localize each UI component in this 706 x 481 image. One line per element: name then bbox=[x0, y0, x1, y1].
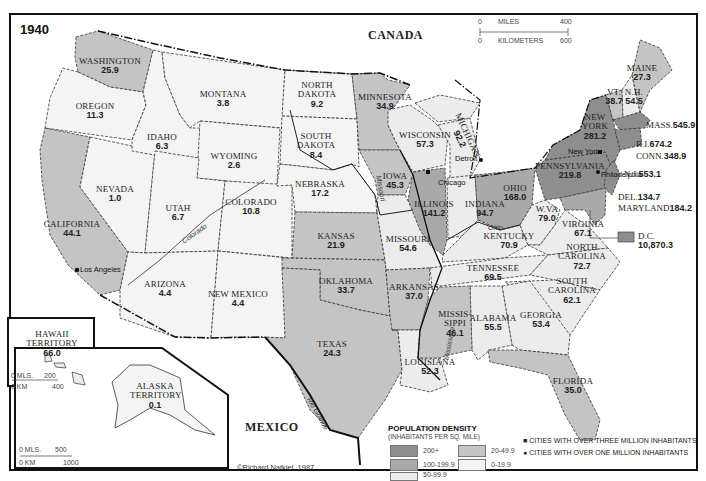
label-colorado: COLORADO10.8 bbox=[225, 198, 277, 217]
label-south-carolina: SOUTH CAROLINA62.1 bbox=[547, 277, 597, 305]
label-maine: MAINE27.3 bbox=[627, 64, 658, 83]
label-canada: CANADA bbox=[368, 28, 423, 43]
label-iowa: IOWA45.3 bbox=[383, 172, 407, 191]
legend-title: POPULATION DENSITY bbox=[388, 424, 480, 433]
label-north-carolina: NORTH CAROLINA72.7 bbox=[557, 243, 607, 271]
legend-subtitle: (INHABITANTS PER SQ. MILE) bbox=[388, 433, 480, 440]
hawaii-scale-mi-max: 200 bbox=[44, 372, 56, 379]
scale-mi-zero: 0 bbox=[478, 18, 482, 25]
legend-swatch-20 bbox=[458, 445, 486, 457]
label-ohio: OHIO168.0 bbox=[503, 184, 526, 203]
label-arkansas: ARKANSAS37.0 bbox=[389, 283, 439, 302]
label-washington: WASHINGTON25.9 bbox=[79, 57, 141, 76]
label-oregon: OREGON11.3 bbox=[76, 102, 115, 121]
city-detroit: Detroit bbox=[455, 154, 477, 163]
label-mexico: MEXICO bbox=[245, 420, 299, 435]
label-north-dakota: NORTH DAKOTA9.2 bbox=[292, 81, 342, 109]
city-new-york: New York bbox=[568, 147, 600, 156]
label-wyoming: WYOMING2.6 bbox=[211, 152, 258, 171]
label-maryland: MARYLAND184.2 bbox=[618, 197, 692, 215]
legend-swatch-100 bbox=[390, 459, 418, 471]
label-arizona: ARIZONA4.4 bbox=[144, 280, 186, 299]
river-ohio: Ohio bbox=[488, 224, 503, 231]
hawaii-scale-mi: 0 MLS. bbox=[11, 372, 33, 379]
legend-city-three-million: ■ CITIES WITH OVER THREE MILLION INHABIT… bbox=[523, 437, 697, 444]
chicago-square bbox=[426, 170, 430, 174]
label-connecticut: CONN.348.9 bbox=[636, 145, 686, 163]
scale-km-zero: 0 bbox=[478, 37, 482, 44]
legend-label-20: 20-49.9 bbox=[491, 447, 515, 454]
legend: POPULATION DENSITY (INHABITANTS PER SQ. … bbox=[388, 424, 480, 440]
legend-label-50: 50-99.9 bbox=[423, 471, 447, 478]
dc-swatch bbox=[618, 232, 634, 242]
city-los-angeles: Los Angeles bbox=[80, 265, 121, 274]
label-louisiana: LOUISIANA52.3 bbox=[405, 358, 456, 377]
label-florida: FLORIDA35.0 bbox=[553, 377, 593, 396]
legend-label-100: 100-199.9 bbox=[423, 461, 455, 468]
label-texas: TEXAS24.3 bbox=[317, 340, 347, 359]
city-chicago: Chicago bbox=[438, 178, 466, 187]
label-wisconsin: WISCONSIN57.3 bbox=[399, 131, 451, 150]
label-vermont: VT.38.7 bbox=[605, 88, 623, 107]
detroit-dot bbox=[479, 158, 483, 162]
label-west-virginia: W.VA79.0 bbox=[536, 205, 559, 224]
alaska-scale-km: 0 KM bbox=[19, 459, 35, 466]
label-alabama: ALABAMA55.5 bbox=[470, 314, 517, 333]
label-montana: MONTANA3.8 bbox=[200, 90, 247, 109]
legend-swatch-0 bbox=[458, 459, 486, 471]
square-icon: ■ bbox=[523, 437, 527, 444]
label-mississippi: MISSIS-SIPPI46.1 bbox=[437, 310, 473, 338]
legend-label-200plus: 200+ bbox=[423, 447, 439, 454]
dot-icon: ● bbox=[523, 449, 527, 456]
label-alaska: ALASKA TERRITORY0.1 bbox=[130, 382, 180, 410]
label-new-mexico: NEW MEXICO4.4 bbox=[208, 290, 268, 309]
label-virginia: VIRGINIA67.1 bbox=[562, 220, 605, 239]
label-california: CALIFORNIA44.1 bbox=[44, 220, 101, 239]
city-philadelphia: Philadelphia bbox=[601, 170, 642, 179]
hawaii-scale-km: 0 KM bbox=[11, 383, 27, 390]
label-georgia: GEORGIA53.4 bbox=[520, 311, 562, 330]
scale-km-label: KILOMETERS bbox=[498, 37, 543, 44]
label-indiana: INDIANA94.7 bbox=[465, 200, 505, 219]
label-kentucky: KENTUCKY70.9 bbox=[483, 232, 534, 251]
label-minnesota: MINNESOTA34.9 bbox=[358, 93, 412, 112]
map-year: 1940 bbox=[20, 22, 49, 37]
label-south-dakota: SOUTH DAKOTA8.4 bbox=[291, 132, 341, 160]
alaska-scale-km-max: 1000 bbox=[63, 459, 79, 466]
alaska-scale-mi-max: 500 bbox=[55, 446, 67, 453]
legend-label-0: 0-19.9 bbox=[491, 461, 511, 468]
label-oklahoma: OKLAHOMA33.7 bbox=[319, 277, 373, 296]
label-illinois: ILLINOIS141.2 bbox=[414, 200, 454, 219]
label-kansas: KANSAS21.9 bbox=[317, 232, 354, 251]
label-dc: D.C.10,870.3 bbox=[638, 232, 673, 251]
label-massachusetts: MASS.545.9 bbox=[646, 114, 695, 132]
scale-km-max: 600 bbox=[560, 37, 572, 44]
label-new-hampshire: N.H.54.5 bbox=[625, 88, 643, 107]
label-new-york: NEW YORK281.2 bbox=[577, 113, 613, 141]
label-missouri: MISSOURI54.6 bbox=[386, 235, 431, 254]
label-nevada: NEVADA1.0 bbox=[96, 185, 134, 204]
legend-city-one-million: ● CITIES WITH OVER ONE MILLION INHABITAN… bbox=[523, 449, 688, 456]
legend-swatch-200plus bbox=[390, 445, 418, 457]
alaska-scale-mi: 0 MLS. bbox=[19, 446, 41, 453]
scale-mi-max: 400 bbox=[560, 18, 572, 25]
state-colorado bbox=[218, 181, 292, 258]
label-utah: UTAH6.7 bbox=[165, 204, 190, 223]
hawaii-scale-km-max: 400 bbox=[52, 383, 64, 390]
label-idaho: IDAHO6.3 bbox=[147, 133, 177, 152]
scale-mi-label: MILES bbox=[498, 18, 519, 25]
legend-swatch-50 bbox=[390, 472, 418, 481]
label-tennessee: TENNESSEE69.5 bbox=[467, 264, 519, 283]
label-nebraska: NEBRASKA17.2 bbox=[295, 180, 345, 199]
label-hawaii: HAWAII TERRITORY66.0 bbox=[22, 330, 82, 358]
label-pennsylvania: PENNSYLVANIA219.8 bbox=[535, 162, 605, 181]
map-credit: ©Richard Natkiel, 1987 bbox=[237, 463, 314, 472]
los-angeles-dot bbox=[75, 268, 79, 272]
